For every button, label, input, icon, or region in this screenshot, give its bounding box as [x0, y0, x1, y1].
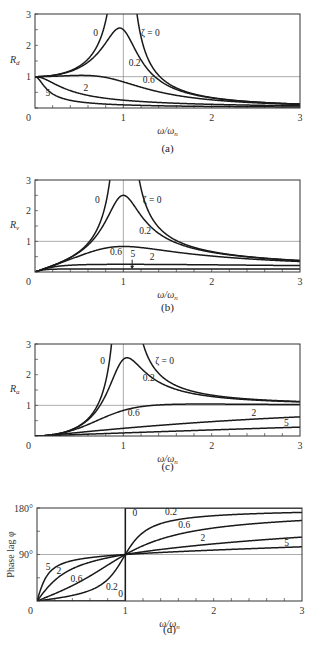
y-axis-label: Ra	[9, 383, 20, 396]
curve-label: ζ = 0	[143, 195, 162, 206]
y-tick-label: 0	[26, 276, 31, 287]
y-tick-label: 3	[26, 339, 31, 350]
curve-label: ζ = 0	[155, 356, 174, 367]
x-tick-label: 1	[123, 605, 128, 616]
y-tick-label: 1	[26, 236, 31, 247]
curve-label: 5	[46, 562, 51, 572]
curve-zeta-0_6	[37, 521, 302, 601]
y-tick-label: 180°	[14, 503, 33, 514]
chart-panel-b: 0123123ω/ωnRv0ζ = 00.20.652(b)	[9, 0, 303, 314]
figure-caption: (b)	[161, 301, 174, 314]
figure-caption: (c)	[161, 460, 174, 473]
x-tick-label: 1	[121, 276, 126, 287]
x-tick-label: 3	[298, 112, 303, 123]
curve-label: 0	[93, 28, 98, 38]
curve-label: 2	[150, 252, 155, 262]
curve-label: 5	[284, 538, 289, 548]
x-axis-label: ω/ωn	[157, 125, 178, 138]
x-tick-label: 1	[121, 440, 126, 451]
curve-label: 5	[130, 249, 135, 259]
curve-label: 0.6	[110, 247, 122, 257]
y-tick-label: 1	[26, 400, 31, 411]
curve-zeta-0	[124, 0, 300, 104]
x-tick-label: 3	[298, 440, 303, 451]
figure-canvas: 0123123ω/ωnRd0ζ = 00.20.625(a) 0123123ω/…	[0, 0, 317, 653]
y-tick-label: 0	[26, 440, 31, 451]
y-tick-label: 3	[26, 175, 31, 186]
curve-label: 5	[284, 418, 289, 428]
curve-label: 2	[251, 408, 256, 418]
curve-zeta-0	[35, 0, 123, 436]
curve-zeta-0_2	[35, 195, 300, 272]
curve-label: 0.6	[71, 574, 83, 584]
curve-label: 2	[56, 566, 61, 576]
x-tick-label: 1	[121, 112, 126, 123]
curve-label: 0.2	[165, 507, 177, 517]
y-axis-label: Rv	[9, 219, 20, 232]
curve-label: 0	[118, 589, 123, 599]
y-tick-label: 90°	[19, 549, 33, 560]
curve-label: 2	[84, 83, 89, 93]
x-tick-label: 2	[211, 605, 216, 616]
curves	[35, 0, 300, 272]
y-tick-label: 0	[26, 112, 31, 123]
curve-zeta-0	[35, 0, 123, 272]
y-tick-label: 2	[26, 40, 31, 51]
x-tick-label: 2	[209, 440, 214, 451]
y-axis-label: Phase lag φ	[5, 531, 16, 578]
curve-label: 0.6	[128, 408, 140, 418]
chart-panel-a: 0123123ω/ωnRd0ζ = 00.20.625(a)	[9, 0, 303, 155]
curves	[35, 0, 300, 107]
y-tick-label: 3	[26, 9, 31, 20]
curve-zeta-2	[37, 537, 302, 601]
curve-zeta-0_6	[35, 75, 300, 104]
curve-label: 0	[95, 195, 100, 205]
chart-panel-d: 090°180°123ω/ωnPhase lag φ00.20.625520.6…	[5, 503, 305, 637]
figure-caption: (d)	[163, 623, 176, 636]
curve-zeta-0	[124, 0, 300, 261]
curve-label: 0.6	[143, 75, 155, 85]
curve-zeta-2	[35, 264, 300, 272]
curve-zeta-2	[35, 417, 300, 436]
curve-label: 0.2	[106, 582, 118, 592]
x-tick-label: 3	[300, 605, 305, 616]
x-tick-label: 3	[298, 276, 303, 287]
curve-label: 0.2	[139, 226, 151, 236]
x-tick-label: 2	[209, 276, 214, 287]
curve-label: ζ = 0	[141, 28, 160, 39]
curve-label: 0.2	[143, 373, 155, 383]
y-tick-label: 1	[26, 71, 31, 82]
y-tick-label: 2	[26, 369, 31, 380]
curve-label: 0	[132, 508, 137, 518]
curve-label: 5	[46, 88, 51, 98]
curve-label: 0.2	[129, 58, 141, 68]
curves	[35, 0, 300, 436]
curve-zeta-0_6	[35, 246, 300, 272]
x-tick-label: 2	[209, 112, 214, 123]
curve-label: 2	[200, 533, 205, 543]
y-tick-label: 0	[28, 605, 33, 616]
curve-label: 0	[100, 356, 105, 366]
y-axis-label: Rd	[9, 54, 20, 67]
curve-label: 0.6	[178, 520, 190, 530]
figure-caption: (a)	[161, 142, 174, 155]
y-tick-label: 2	[26, 205, 31, 216]
curve-zeta-0_2	[37, 512, 302, 601]
